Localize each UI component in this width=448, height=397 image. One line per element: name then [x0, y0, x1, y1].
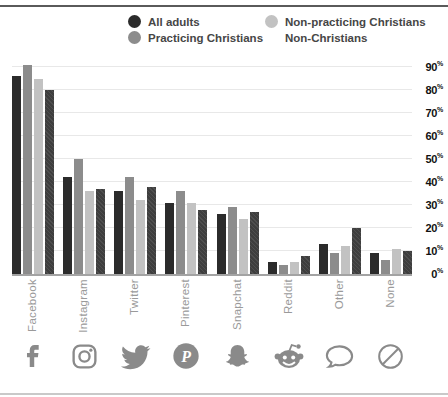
legend-label: All adults	[148, 16, 200, 28]
bar-none-non-christians	[403, 251, 412, 274]
bar-reddit-all-adults	[268, 262, 277, 274]
bar-other-practicing-christians	[330, 253, 339, 274]
y-tick-50: 50%	[413, 152, 443, 165]
bar-facebook-all-adults	[12, 76, 21, 274]
top-rule	[0, 5, 448, 7]
y-axis: 0%10%20%30%40%50%60%70%80%90%	[412, 52, 448, 274]
plot-area	[12, 52, 412, 276]
bottom-rule	[0, 393, 448, 395]
reddit-icon	[268, 338, 310, 374]
y-tick-20: 20%	[413, 221, 443, 234]
x-labels: FacebookInstagramTwitterPinterestSnapcha…	[12, 276, 412, 330]
x-label-other: Other	[319, 276, 361, 330]
bar-snapchat-non-practicing-christians	[239, 219, 248, 274]
bar-pinterest-practicing-christians	[176, 191, 185, 274]
legend-swatch-all-adults	[128, 15, 141, 28]
gridline-80	[12, 89, 412, 90]
legend-swatch-non-practicing-christians	[265, 15, 278, 28]
bar-group-reddit	[268, 256, 310, 274]
y-tick-40: 40%	[413, 175, 443, 188]
bar-snapchat-practicing-christians	[228, 207, 237, 274]
legend-item-practicing-christians: Practicing Christians	[128, 31, 265, 44]
bar-facebook-non-christians	[45, 90, 54, 274]
bar-instagram-non-practicing-christians	[85, 191, 94, 274]
bar-group-twitter	[114, 177, 156, 274]
x-label-instagram: Instagram	[63, 276, 105, 330]
y-tick-90: 90%	[413, 60, 443, 73]
bar-instagram-all-adults	[63, 177, 72, 274]
bar-instagram-non-christians	[96, 189, 105, 274]
bar-twitter-non-christians	[147, 187, 156, 274]
y-tick-70: 70%	[413, 106, 443, 119]
bar-pinterest-non-christians	[198, 210, 207, 274]
x-label-twitter: Twitter	[114, 276, 156, 330]
legend-label: Non-practicing Christians	[285, 16, 426, 28]
bar-other-non-practicing-christians	[341, 246, 350, 274]
bar-other-all-adults	[319, 244, 328, 274]
bar-group-other	[319, 228, 361, 274]
bar-pinterest-all-adults	[165, 203, 174, 274]
bar-twitter-all-adults	[114, 191, 123, 274]
x-label-text: Snapchat	[231, 279, 243, 330]
bar-pinterest-non-practicing-christians	[187, 203, 196, 274]
bar-reddit-non-christians	[301, 256, 310, 274]
x-label-text: Twitter	[128, 279, 140, 315]
legend-label: Non-Christians	[285, 32, 367, 44]
y-tick-30: 30%	[413, 198, 443, 211]
x-label-none: None	[370, 276, 412, 330]
y-tick-0: 0%	[413, 267, 443, 280]
bar-group-snapchat	[217, 207, 259, 274]
bar-instagram-practicing-christians	[74, 159, 83, 274]
bar-other-non-christians	[352, 228, 361, 274]
facebook-icon	[12, 338, 54, 374]
x-label-text: Facebook	[26, 279, 38, 332]
bar-group-pinterest	[165, 191, 207, 274]
legend-swatch-non-christians	[265, 31, 278, 44]
legend-item-all-adults: All adults	[128, 15, 265, 28]
y-tick-10: 10%	[413, 244, 443, 257]
bar-none-all-adults	[370, 253, 379, 274]
y-tick-80: 80%	[413, 83, 443, 96]
x-label-facebook: Facebook	[12, 276, 54, 330]
bar-snapchat-all-adults	[217, 214, 226, 274]
y-tick-60: 60%	[413, 129, 443, 142]
svg-text:P: P	[182, 348, 192, 365]
gridline-70	[12, 112, 412, 113]
bar-group-instagram	[63, 159, 105, 274]
bar-none-non-practicing-christians	[392, 249, 401, 274]
twitter-icon	[114, 338, 156, 374]
x-label-text: Reddit	[282, 279, 294, 314]
x-label-text: Other	[333, 279, 345, 309]
legend-label: Practicing Christians	[148, 32, 263, 44]
x-label-snapchat: Snapchat	[217, 276, 259, 330]
x-label-reddit: Reddit	[268, 276, 310, 330]
pinterest-icon: P	[165, 338, 207, 374]
legend-item-non-practicing-christians: Non-practicing Christians	[265, 15, 448, 28]
chart: 0%10%20%30%40%50%60%70%80%90%	[12, 52, 448, 276]
platform-icons-row: P	[12, 338, 412, 374]
bar-twitter-practicing-christians	[125, 177, 134, 274]
legend-swatch-practicing-christians	[128, 31, 141, 44]
legend: All adultsNon-practicing ChristiansPract…	[128, 15, 448, 44]
bar-reddit-non-practicing-christians	[290, 262, 299, 274]
none-icon	[370, 338, 412, 374]
x-label-pinterest: Pinterest	[165, 276, 207, 330]
bar-group-facebook	[12, 65, 54, 274]
chat-bubble-icon	[319, 338, 361, 374]
bar-none-practicing-christians	[381, 260, 390, 274]
x-label-text: Instagram	[77, 279, 89, 333]
bar-snapchat-non-christians	[250, 212, 259, 274]
bar-reddit-practicing-christians	[279, 265, 288, 274]
bar-facebook-practicing-christians	[23, 65, 32, 274]
gridline-90	[12, 66, 412, 67]
snapchat-icon	[217, 338, 259, 374]
bar-group-none	[370, 249, 412, 274]
gridline-60	[12, 135, 412, 136]
x-label-text: None	[384, 279, 396, 308]
legend-item-non-christians: Non-Christians	[265, 31, 448, 44]
instagram-icon	[63, 338, 105, 374]
bar-twitter-non-practicing-christians	[136, 200, 145, 274]
bar-facebook-non-practicing-christians	[34, 79, 43, 274]
x-label-text: Pinterest	[179, 279, 191, 327]
